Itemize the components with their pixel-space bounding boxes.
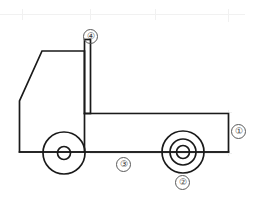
front-wheel [43, 132, 85, 174]
front-wheel-hub [58, 147, 71, 160]
callout-marker-3[interactable]: ③ [116, 157, 131, 172]
callout-marker-2[interactable]: ② [175, 175, 190, 190]
flatbed-platform [85, 114, 229, 153]
truck-cab [20, 51, 85, 152]
background-grid [0, 9, 245, 156]
diagram-canvas: ① ② ③ ④ [0, 0, 259, 202]
truck-side-view-diagram [0, 0, 259, 202]
callout-marker-1[interactable]: ① [231, 124, 246, 139]
headboard-post [85, 40, 91, 114]
callout-marker-4[interactable]: ④ [83, 29, 98, 44]
